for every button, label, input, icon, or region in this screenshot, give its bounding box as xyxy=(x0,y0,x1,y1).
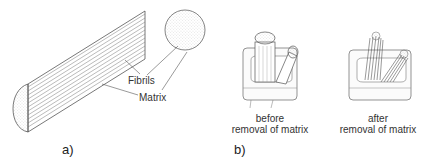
caption-after-line2: removal of matrix xyxy=(338,124,418,135)
specimen-before xyxy=(243,32,298,108)
caption-b: b) xyxy=(234,142,246,157)
composite-strip xyxy=(13,11,145,132)
specimen-after xyxy=(349,32,411,100)
caption-after-line1: after xyxy=(338,113,418,124)
caption-before: before removal of matrix xyxy=(230,113,310,135)
label-matrix: Matrix xyxy=(139,92,166,103)
caption-before-line2: removal of matrix xyxy=(230,124,310,135)
cross-section-circle xyxy=(165,10,205,50)
caption-after: after removal of matrix xyxy=(338,113,418,135)
caption-a: a) xyxy=(62,142,74,157)
label-fibrils: Fibrils xyxy=(128,75,155,86)
caption-before-line1: before xyxy=(230,113,310,124)
